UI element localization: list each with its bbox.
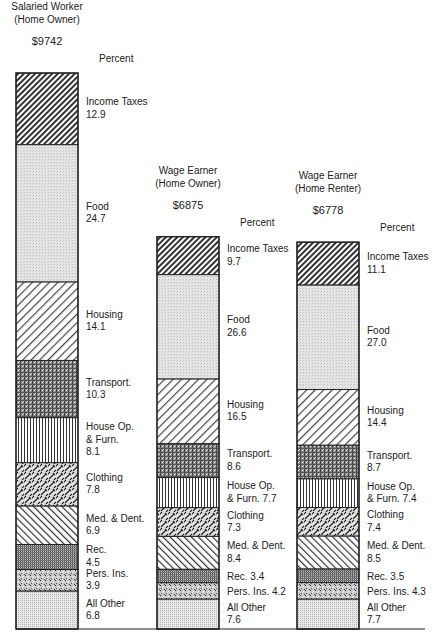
bar-3-label-transport-line-2: 8.7 xyxy=(367,462,381,473)
bar-1-label-food: Food xyxy=(86,201,109,212)
bar-1-segment-income-taxes xyxy=(16,73,78,145)
bar-2-label-rec: Rec. 3.4 xyxy=(227,571,265,582)
bar-2-segment-house-op-furn xyxy=(157,478,219,508)
bar-1-label-clothing-line-2: 7.8 xyxy=(86,484,100,495)
bar-3-income-label: $6778 xyxy=(313,204,344,216)
bar-1-label-clothing: Clothing xyxy=(86,472,123,483)
bar-2-label-transport: Transport. xyxy=(227,448,272,459)
bar-2-label-all-other-line-2: 7.6 xyxy=(227,614,241,625)
bar-1-label-rec: Rec. xyxy=(86,544,107,555)
bar-2-label-income-taxes: Income Taxes xyxy=(227,243,289,254)
bar-2-segment-housing xyxy=(157,379,219,444)
bar-3-label-all-other-line-2: 7.7 xyxy=(367,614,381,625)
bar-2-segment-all-other xyxy=(157,599,219,629)
bar-2-label-med-dent-line-2: 8.4 xyxy=(227,553,241,564)
bar-2-label-food-line-2: 26.6 xyxy=(227,327,247,338)
bar-1-percent-heading: Percent xyxy=(99,53,134,64)
bar-1-income-label: $9742 xyxy=(32,35,63,47)
stacked-bar-chart: Salaried Worker(Home Owner)$9742PercentI… xyxy=(0,0,437,643)
bar-2-segment-clothing xyxy=(157,508,219,537)
bars-layer xyxy=(16,73,359,629)
bar-2-title-line-2: (Home Owner) xyxy=(155,178,221,189)
bar-2-segment-food xyxy=(157,275,219,379)
bar-3-segment-house-op-furn xyxy=(297,479,359,508)
bar-3-label-income-taxes: Income Taxes xyxy=(367,251,429,262)
bar-2-label-food: Food xyxy=(227,314,250,325)
bar-3-segment-all-other xyxy=(297,599,359,629)
bar-3-label-income-taxes-line-2: 11.1 xyxy=(367,264,386,275)
bar-1-title-line-1: Salaried Worker xyxy=(11,1,83,12)
bar-3-label-all-other: All Other xyxy=(367,602,407,613)
bar-1-title-line-2: (Home Owner) xyxy=(14,14,80,25)
bar-3-segment-rec xyxy=(297,569,359,583)
bar-3-label-food: Food xyxy=(367,325,390,336)
bar-3-segment-med-dent xyxy=(297,536,359,569)
bar-1-label-transport: Transport. xyxy=(86,377,131,388)
bar-3-percent-heading: Percent xyxy=(380,222,415,233)
bar-3-segment-income-taxes xyxy=(297,242,359,285)
bar-3-segment-transport xyxy=(297,445,359,479)
bar-2-segment-transport xyxy=(157,444,219,478)
bar-3-title-line-2: (Home Renter) xyxy=(295,183,361,194)
bar-1-segment-transport xyxy=(16,360,78,417)
bar-2-label-house-op-furn-line-2: & Furn. 7.7 xyxy=(227,493,277,504)
bar-1-segment-pers-ins xyxy=(16,570,78,592)
bar-2-label-transport-line-2: 8.6 xyxy=(227,461,241,472)
bar-2-segment-pers-ins xyxy=(157,583,219,599)
bar-3-segment-housing xyxy=(297,390,359,446)
bar-1-label-rec-line-2: 4.5 xyxy=(86,557,100,568)
bar-3-label-food-line-2: 27.0 xyxy=(367,337,387,348)
bar-3-segment-food xyxy=(297,285,359,389)
bar-2-segment-income-taxes xyxy=(157,237,219,275)
bar-1-label-housing: Housing xyxy=(86,309,123,320)
bar-1-segment-food xyxy=(16,145,78,282)
bar-2-segment-med-dent xyxy=(157,536,219,569)
bar-3-title-line-1: Wage Earner xyxy=(299,170,358,181)
bar-3-label-house-op-furn: House Op. xyxy=(367,481,415,492)
bar-3-label-rec: Rec. 3.5 xyxy=(367,571,405,582)
bar-2-label-housing-line-2: 16.5 xyxy=(227,411,247,422)
bar-2-label-all-other: All Other xyxy=(227,602,267,613)
bar-1-label-house-op-furn-line-3: 8.1 xyxy=(86,446,100,457)
bar-1-segment-clothing xyxy=(16,463,78,506)
bar-1-segment-all-other xyxy=(16,591,78,629)
bar-2-label-clothing-line-2: 7.3 xyxy=(227,522,241,533)
bar-3-label-housing: Housing xyxy=(367,405,404,416)
bar-1-label-house-op-furn: House Op. xyxy=(86,421,134,432)
bar-3-label-clothing-line-2: 7.4 xyxy=(367,522,381,533)
bar-1-label-transport-line-2: 10.3 xyxy=(86,389,106,400)
bar-2-label-house-op-furn: House Op. xyxy=(227,480,275,491)
bar-1-label-housing-line-2: 14.1 xyxy=(86,321,106,332)
bar-2-label-med-dent: Med. & Dent. xyxy=(227,540,285,551)
bar-3-label-clothing: Clothing xyxy=(367,509,404,520)
bar-1-label-pers-ins: Pers. Ins. xyxy=(86,568,128,579)
bar-2-label-housing: Housing xyxy=(227,399,264,410)
bar-2-label-income-taxes-line-2: 9.7 xyxy=(227,256,241,267)
bar-2-label-clothing: Clothing xyxy=(227,510,264,521)
bar-1-label-income-taxes: Income Taxes xyxy=(86,96,148,107)
bar-1-segment-house-op-furn xyxy=(16,418,78,463)
bar-1-label-med-dent-line-2: 6.9 xyxy=(86,525,100,536)
bar-2-percent-heading: Percent xyxy=(240,217,275,228)
bar-3-label-med-dent-line-2: 8.5 xyxy=(367,553,381,564)
bar-3-label-med-dent: Med. & Dent. xyxy=(367,540,425,551)
bar-1-label-food-line-2: 24.7 xyxy=(86,213,106,224)
bar-1-segment-housing xyxy=(16,282,78,360)
bar-3-segment-pers-ins xyxy=(297,583,359,600)
bar-1-label-all-other: All Other xyxy=(86,598,126,609)
bar-2-title-line-1: Wage Earner xyxy=(159,165,218,176)
bar-1-segment-rec xyxy=(16,544,78,569)
bar-3-label-house-op-furn-line-2: & Furn. 7.4 xyxy=(367,493,417,504)
bar-1-label-house-op-furn-line-2: & Furn. xyxy=(86,434,119,445)
bar-1-label-income-taxes-line-2: 12.9 xyxy=(86,109,106,120)
bar-2-segment-rec xyxy=(157,569,219,582)
bar-1-segment-med-dent xyxy=(16,506,78,544)
bar-3-segment-clothing xyxy=(297,508,359,537)
bar-1-label-all-other-line-2: 6.8 xyxy=(86,610,100,621)
bar-1-label-med-dent: Med. & Dent. xyxy=(86,513,144,524)
bar-3-label-pers-ins: Pers. Ins. 4.3 xyxy=(367,586,426,597)
bar-3-label-housing-line-2: 14.4 xyxy=(367,417,387,428)
bar-1-label-pers-ins-line-2: 3.9 xyxy=(86,580,100,591)
bar-2-income-label: $6875 xyxy=(173,199,204,211)
bar-2-label-pers-ins: Pers. Ins. 4.2 xyxy=(227,586,286,597)
